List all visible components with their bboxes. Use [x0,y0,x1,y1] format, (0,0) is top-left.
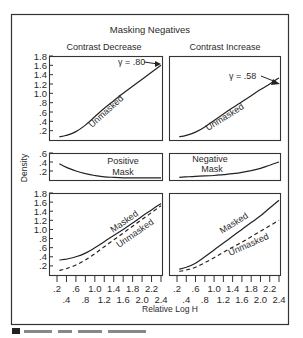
annotation-unmasked: Unmasked [87,93,126,129]
annotation-unmasked: Unmasked [204,101,246,132]
annotation-gamma: γ = .80 [118,57,145,67]
panel-bottom-right: .2.61.01.41.82.2.4.81.21.62.02.4MaskedUn… [170,194,286,306]
x-tick-label: 1.2 [217,294,230,305]
series-negative-mask [179,162,279,177]
x-tick-label: 1.8 [126,283,139,294]
x-tick-label: 1.6 [235,294,248,305]
panel-top-left: .2.4.6.81.01.21.41.61.8Unmaskedγ = .80 [34,51,163,141]
annotation-masked: Masked [218,211,250,236]
x-tick-label: 2.0 [254,294,267,305]
panel-middle-left: .2.4.6PositiveMask [39,148,162,181]
x-tick-label: .8 [81,294,89,305]
panel-frame [50,57,163,141]
x-axis-label: Relative Log H [142,304,198,314]
annotation-mask: Mask [201,164,223,174]
x-tick-label: 1.0 [207,283,220,294]
outer-frame [12,15,289,325]
annotation-negative: Negative [192,154,228,164]
x-tick-label: .2 [173,283,181,294]
x-tick-label: 1.6 [117,294,130,305]
x-tick-label: 2.2 [263,283,276,294]
x-tick-label: 1.0 [88,283,101,294]
column-title-left: Contrast Decrease [66,42,141,52]
annotation-mask: Mask [112,167,134,177]
x-tick-label: 2.4 [272,294,285,305]
x-tick-label: 2.2 [145,283,158,294]
column-title-right: Contrast Increase [189,42,260,52]
y-tick-label: 1.8 [34,188,47,199]
x-tick-label: 1.8 [245,283,258,294]
annotation-positive: Positive [107,156,139,166]
y-tick-label: .6 [39,148,47,159]
panel-frame [50,194,163,276]
caption-partial [24,330,146,333]
panel-top-right: Unmaskedγ = .58 [170,57,281,141]
panel-frame [170,57,281,141]
x-tick-label: .4 [62,294,70,305]
masking-negatives-figure: Masking Negatives Contrast Decrease Cont… [0,0,303,338]
annotation-gamma: γ = .58 [229,71,256,81]
caption-marker [12,328,20,334]
figure-title: Masking Negatives [110,24,191,35]
panel-middle-right: NegativeMask [170,154,281,181]
x-tick-label: .2 [53,283,61,294]
series-masked [59,204,161,261]
x-tick-label: 1.4 [226,283,239,294]
x-tick-label: 1.2 [98,294,111,305]
x-tick-label: .6 [192,283,200,294]
x-tick-label: .8 [201,294,209,305]
y-tick-label: 1.8 [34,51,47,62]
x-tick-label: .6 [72,283,80,294]
y-axis-label: Density [19,153,29,182]
panels: .2.4.6.81.01.21.41.61.8Unmaskedγ = .80Un… [34,51,286,306]
x-tick-label: 1.4 [107,283,120,294]
panel-bottom-left: .2.4.6.81.01.21.41.61.8.2.61.01.41.82.2.… [34,188,168,306]
